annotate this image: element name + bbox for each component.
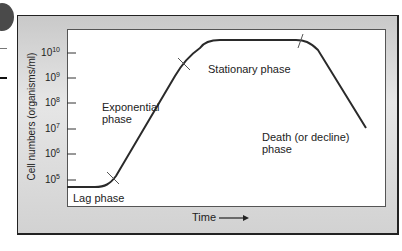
exponential-phase-label-line1: Exponential xyxy=(102,101,160,113)
y-axis-label: Cell numbers (organisms/ml) xyxy=(26,71,37,181)
time-arrow-icon xyxy=(219,215,249,221)
x-axis-label: Time xyxy=(192,211,216,223)
exponential-phase-label-line2: phase xyxy=(102,113,160,125)
death-phase-label: Death (or decline) phase xyxy=(262,131,349,155)
death-phase-label-line1: Death (or decline) xyxy=(262,131,349,143)
exponential-phase-label: Exponential phase xyxy=(102,101,160,125)
death-phase-label-line2: phase xyxy=(262,143,349,155)
y-ticks xyxy=(67,53,76,180)
lag-phase-label: Lag phase xyxy=(73,192,124,204)
stationary-phase-label: Stationary phase xyxy=(208,63,291,75)
